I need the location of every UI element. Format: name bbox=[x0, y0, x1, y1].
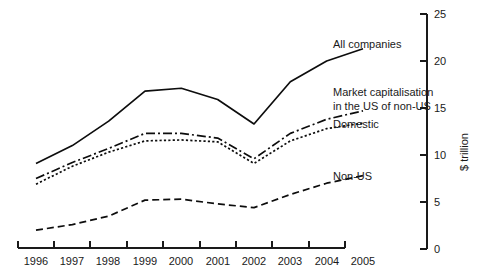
x-tick-label: 2002 bbox=[242, 255, 266, 267]
x-tick-label: 2000 bbox=[169, 255, 193, 267]
y-tick-label: 20 bbox=[434, 55, 446, 67]
x-tick-label: 2005 bbox=[351, 255, 375, 267]
x-tick-label: 1997 bbox=[60, 255, 84, 267]
series-label-non-us: Non-US bbox=[333, 170, 372, 182]
y-tick-label: 0 bbox=[434, 243, 440, 255]
x-axis-tick-labels: 1996 1997 1998 1999 2000 2001 2002 2003 … bbox=[24, 255, 375, 267]
x-tick-label: 2003 bbox=[278, 255, 302, 267]
series-label-market-capitalisation-line2: in the US of non-US bbox=[333, 100, 431, 112]
series-line-non-us bbox=[36, 176, 363, 231]
line-chart: 1996 1997 1998 1999 2000 2001 2002 2003 … bbox=[0, 0, 477, 280]
x-tick-label: 2004 bbox=[315, 255, 339, 267]
series-line-domestic bbox=[36, 123, 363, 184]
series-label-domestic: Domestic bbox=[333, 118, 379, 130]
x-tick-label: 1998 bbox=[96, 255, 120, 267]
series-label-market-capitalisation-line1: Market capitalisation bbox=[333, 86, 433, 98]
y-axis-ticks bbox=[420, 14, 427, 249]
y-tick-label: 15 bbox=[434, 102, 446, 114]
y-tick-label: 10 bbox=[434, 149, 446, 161]
series-label-all-companies: All companies bbox=[333, 38, 402, 50]
y-tick-label: 5 bbox=[434, 196, 440, 208]
x-axis-ticks bbox=[18, 241, 345, 248]
series-line-market-capitalisation bbox=[36, 111, 363, 179]
chart-container: 1996 1997 1998 1999 2000 2001 2002 2003 … bbox=[0, 0, 477, 280]
y-axis-title: $ trillion bbox=[458, 133, 470, 171]
y-tick-label: 25 bbox=[434, 8, 446, 20]
series-line-all-companies bbox=[36, 49, 363, 164]
x-tick-label: 1996 bbox=[24, 255, 48, 267]
y-axis-tick-labels: 25 20 15 10 5 0 bbox=[434, 8, 446, 255]
x-tick-label: 1999 bbox=[133, 255, 157, 267]
x-tick-label: 2001 bbox=[206, 255, 230, 267]
